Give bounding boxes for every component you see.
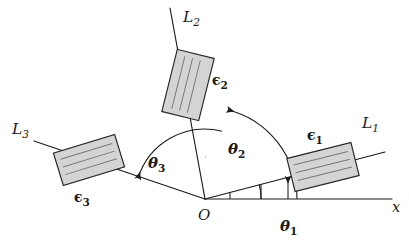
diagram-canvas: L1 L2 L3 θ1 θ2 θ3 ϵ1 ϵ2 ϵ3 O x — [0, 0, 409, 241]
origin-label: O — [198, 206, 210, 224]
slab-eps2 — [162, 49, 214, 120]
ray-label-l2: L2 — [182, 8, 200, 28]
angle-label-theta1: θ1 — [280, 217, 297, 237]
slab-eps1-body — [287, 143, 359, 192]
slab-eps3 — [53, 134, 124, 185]
angle-arc-group — [138, 110, 297, 199]
ray-label-l3: L3 — [11, 120, 29, 140]
angle-label-theta3: θ3 — [148, 154, 165, 174]
figure-root: L1 L2 L3 θ1 θ2 θ3 ϵ1 ϵ2 ϵ3 O x — [0, 0, 409, 241]
x-axis-label: x — [392, 199, 400, 215]
slab-label-eps3: ϵ3 — [74, 189, 90, 208]
angle-label-theta2: θ2 — [228, 140, 245, 160]
slab-eps1 — [287, 143, 359, 192]
slab-label-eps1: ϵ1 — [307, 127, 323, 146]
ray-label-l1: L1 — [361, 114, 379, 134]
slab-label-eps2: ϵ2 — [212, 72, 228, 91]
